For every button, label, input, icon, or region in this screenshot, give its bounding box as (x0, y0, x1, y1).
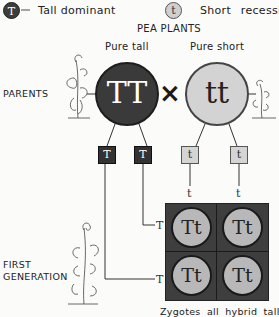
parents-row-label: PARENTS (3, 88, 48, 99)
punnett-cell: Tt (217, 204, 268, 252)
pure-tall-caption: Pure tall (105, 41, 149, 52)
first-generation-label-line1: FIRST (3, 259, 31, 270)
first-generation-label-line2: GENERATION (3, 271, 68, 282)
dominant-allele-icon: T (3, 2, 20, 19)
cross-icon: × (159, 78, 181, 108)
short-gamete-2: t (230, 146, 248, 164)
tall-gamete-2: T (134, 146, 152, 164)
pure-short-caption: Pure short (190, 41, 244, 52)
short-parent-genotype: tt (185, 62, 249, 126)
hybrid-plant-sketch (68, 223, 98, 304)
punnett-square: Tt Tt Tt Tt (165, 203, 269, 301)
recessive-allele-icon: t (165, 2, 182, 19)
tall-parent-genotype: TT (95, 62, 159, 126)
punnett-cell: Tt (217, 252, 268, 300)
punnett-column-label-2: t (236, 187, 240, 200)
tall-plant-sketch (67, 55, 90, 118)
recessive-legend-label: Short recessive (200, 4, 279, 17)
punnett-cell: Tt (166, 204, 217, 252)
zygotes-caption: Zygotes all hybrid tall (160, 306, 279, 317)
dominant-legend-label: Tall dominant (38, 4, 116, 17)
short-plant-sketch (252, 80, 276, 118)
punnett-cell: Tt (166, 252, 217, 300)
tall-gamete-1: T (98, 146, 116, 164)
zygote-genotype: Tt (171, 255, 212, 296)
short-gamete-1: t (181, 146, 199, 164)
zygote-genotype: Tt (222, 255, 263, 296)
punnett-row-label-1: T (156, 219, 163, 232)
punnett-row-label-2: T (156, 273, 163, 286)
zygote-genotype: Tt (222, 207, 263, 248)
punnett-column-label-1: t (187, 187, 191, 200)
diagram-title: PEA PLANTS (137, 23, 201, 34)
zygote-genotype: Tt (171, 207, 212, 248)
